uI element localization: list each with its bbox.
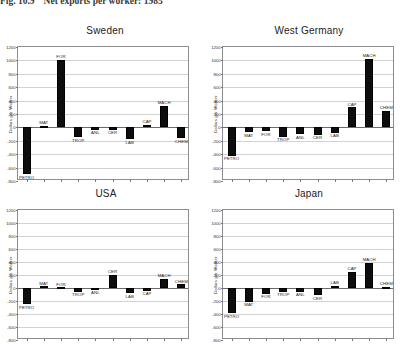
bar-category-label: LAB (126, 140, 134, 145)
y-axis-tick-label: 800 (214, 71, 221, 76)
y-axis-tick-label: -400 (7, 152, 15, 157)
gridline (223, 141, 393, 142)
gridline (223, 168, 393, 169)
y-axis-tick-mark (221, 47, 223, 48)
bar-category-label: PETRO (19, 305, 34, 310)
x-axis-tick-mark (386, 179, 387, 182)
bar-category-label: TROP (277, 292, 289, 297)
y-axis-tick-mark (16, 181, 18, 182)
bar-category-label: MACH (158, 273, 171, 278)
y-axis-tick-label: 400 (9, 98, 16, 103)
y-axis-tick-mark (221, 301, 223, 302)
gridline (223, 327, 393, 328)
x-axis-tick-mark (164, 338, 165, 341)
y-axis-tick-mark (16, 154, 18, 155)
gridline (18, 168, 188, 169)
y-axis-tick-mark (221, 114, 223, 115)
gridline (18, 223, 188, 224)
bar (245, 288, 253, 302)
bar-category-label: CER (313, 296, 322, 301)
y-axis-tick-mark (16, 47, 18, 48)
y-axis-tick-label: -600 (7, 325, 15, 330)
bar (262, 127, 270, 131)
y-axis-tick-mark (221, 168, 223, 169)
y-axis-tick-label: 600 (9, 85, 16, 90)
x-axis-tick-mark (61, 179, 62, 182)
bar-category-label: CAP (142, 119, 151, 124)
gridline (223, 314, 393, 315)
y-axis-tick-mark (221, 275, 223, 276)
bar (109, 275, 117, 288)
y-axis-tick-mark (221, 74, 223, 75)
y-axis-tick-mark (221, 236, 223, 237)
y-axis-tick-mark (221, 288, 223, 289)
bar-category-label: FOR (56, 282, 65, 287)
y-axis-tick-mark (16, 210, 18, 211)
y-axis-tick-label: -200 (212, 138, 220, 143)
x-axis-tick-mark (318, 179, 319, 182)
figure-number: Fig. 10.9 (0, 0, 35, 6)
bar (74, 288, 82, 292)
figure-caption-text: Net exports per worker: 1985 (44, 0, 163, 6)
bar-category-label: MAT (244, 133, 253, 138)
y-axis-tick-mark (16, 223, 18, 224)
gridline (18, 236, 188, 237)
x-axis-tick-mark (27, 338, 28, 341)
bar (160, 106, 168, 127)
x-axis-tick-mark (352, 179, 353, 182)
gridline (223, 223, 393, 224)
y-axis-tick-mark (16, 314, 18, 315)
y-axis-tick-label: 600 (214, 85, 221, 90)
bar-category-label: LAB (331, 133, 339, 138)
gridline (223, 236, 393, 237)
y-axis-tick-mark (221, 249, 223, 250)
chart-grid: Sweden Dollars per Worker -800-600-400-2… (0, 22, 404, 344)
gridline (18, 74, 188, 75)
x-axis-tick-mark (95, 179, 96, 182)
x-axis-tick-mark (147, 179, 148, 182)
y-axis-tick-mark (16, 275, 18, 276)
y-axis-tick-label: -200 (212, 299, 220, 304)
bar-category-label: PETRO (224, 156, 239, 161)
bar (177, 127, 185, 138)
y-axis-tick-label: 600 (214, 247, 221, 252)
bar (331, 286, 339, 288)
y-axis-tick-mark (16, 127, 18, 128)
y-axis-tick-label: 1000 (211, 58, 220, 63)
bar (365, 59, 373, 127)
x-axis-tick-mark (113, 179, 114, 182)
panel-title: West Germany (200, 25, 404, 36)
plot-area: -800-600-400-200020040060080010001200PET… (17, 46, 189, 180)
y-axis-tick-mark (16, 340, 18, 341)
x-axis-tick-mark (130, 338, 131, 341)
y-axis-tick-label: 800 (214, 234, 221, 239)
y-axis-tick-label: -800 (212, 338, 220, 343)
x-axis-tick-mark (249, 338, 250, 341)
bar (57, 60, 65, 128)
y-axis-tick-mark (221, 327, 223, 328)
y-axis-tick-mark (16, 168, 18, 169)
y-axis-tick-label: -400 (212, 152, 220, 157)
bar (348, 107, 356, 127)
x-axis-tick-mark (283, 338, 284, 341)
y-axis-tick-label: -600 (212, 325, 220, 330)
x-axis-tick-mark (266, 338, 267, 341)
plot-frame: -800-600-400-200020040060080010001200PET… (222, 46, 394, 180)
plot-area: -800-600-400-200020040060080010001200PET… (17, 209, 189, 339)
y-axis-tick-label: 1200 (6, 208, 15, 213)
bar-category-label: MAT (39, 281, 48, 286)
x-axis-tick-mark (27, 179, 28, 182)
y-axis-tick-label: -400 (7, 312, 15, 317)
y-axis-tick-label: 400 (214, 98, 221, 103)
bar-category-label: ANL (91, 290, 100, 295)
panel-title: Sweden (0, 25, 200, 36)
x-axis-tick-mark (44, 338, 45, 341)
bar (296, 127, 304, 134)
chart-panel-west-germany: West Germany Dollars per Worker -800-600… (200, 22, 404, 185)
bar-category-label: CHEM (380, 281, 393, 286)
x-axis-tick-mark (369, 338, 370, 341)
chart-panel-usa: USA Dollars per Worker -800-600-400-2000… (0, 185, 200, 344)
x-axis-tick-mark (283, 179, 284, 182)
y-axis-tick-label: -800 (7, 338, 15, 343)
gridline (18, 60, 188, 61)
